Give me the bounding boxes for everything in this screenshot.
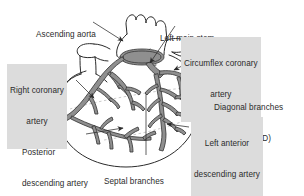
septal-branch-1 — [145, 84, 158, 95]
label-lad-line2: descending artery — [194, 170, 260, 180]
label-diagonal-line1: Diagonal branches — [214, 103, 283, 113]
label-circumflex-line1: Circumflex coronary — [184, 59, 258, 69]
leader-ascending-aorta — [93, 22, 123, 41]
label-septal-line1: Septal branches — [104, 177, 164, 187]
right-coronary-artery-vessel — [64, 57, 124, 121]
rca-branch-2b — [109, 98, 120, 109]
label-posterior-descending-artery: Posterior descending artery — [22, 128, 88, 196]
label-septal-branches: Septal branches (of the LAD) — [104, 157, 164, 196]
label-rca-line1: Right coronary — [10, 86, 64, 96]
septal-branch-3 — [148, 114, 162, 128]
label-lad-line1: Left anterior — [194, 139, 260, 149]
label-posterior-line2: descending artery — [22, 179, 88, 189]
label-left-anterior-descending-artery: Left anterior descending artery — [191, 117, 263, 196]
label-rca-line2: artery — [10, 117, 64, 127]
diagram-canvas: Ascending aorta Left main stem Circumfle… — [0, 0, 304, 196]
label-ascending-aorta-line1: Ascending aorta — [36, 30, 96, 40]
label-ascending-aorta: Ascending aorta — [36, 10, 96, 61]
pda-branch-3 — [100, 117, 113, 129]
rca-branch-3 — [89, 97, 98, 114]
label-posterior-line1: Posterior — [22, 148, 88, 158]
diagonal-branch-3b — [175, 127, 186, 135]
septal-branch-2 — [147, 98, 160, 112]
